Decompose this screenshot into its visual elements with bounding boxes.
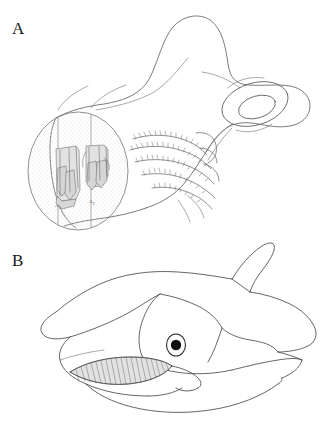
panel-letter-a: A	[12, 20, 24, 37]
panel-b-drawing	[41, 243, 316, 412]
panel-letter-b: B	[12, 252, 23, 269]
eye	[167, 334, 186, 356]
figure-canvas: A1 A2	[0, 0, 336, 427]
branchial-arch-cluster	[130, 131, 219, 222]
caption-cropped	[0, 415, 336, 427]
orbit-foramen	[216, 74, 293, 134]
panel-a-drawing: A1 A2	[0, 0, 336, 427]
magnification-inset: A1 A2	[28, 85, 128, 234]
